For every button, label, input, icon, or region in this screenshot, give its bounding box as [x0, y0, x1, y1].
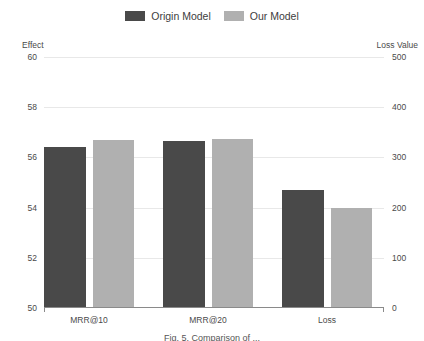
figure-caption: Fig. 5. Comparison of ... — [0, 333, 424, 341]
left-axis-tick-label: 54 — [28, 204, 37, 213]
x-axis-line — [44, 307, 384, 308]
chart-legend: Origin Model Our Model — [0, 11, 424, 22]
right-axis-tick-label: 200 — [392, 204, 406, 213]
left-axis-title: Effect — [22, 40, 44, 50]
bar-mrr-20-our-model — [212, 139, 253, 308]
right-axis-tick-label: 100 — [392, 254, 406, 263]
right-axis-tick-label: 0 — [392, 304, 397, 313]
legend-entry-origin-model: Origin Model — [125, 11, 211, 22]
x-axis-label-mrr-10: MRR@10 — [70, 315, 107, 325]
plot-area: 605856545250 5004003002001000 MRR@10MRR@… — [44, 57, 384, 308]
x-axis-tick-start — [44, 308, 45, 312]
left-axis-tick-label: 58 — [28, 103, 37, 112]
figure-container: Origin Model Our Model Effect Loss Value… — [0, 0, 424, 341]
legend-swatch-origin-model — [125, 11, 145, 21]
left-axis-tick-label: 52 — [28, 254, 37, 263]
x-axis-label-mrr-20: MRR@20 — [189, 315, 226, 325]
right-axis-title: Loss Value — [377, 40, 418, 50]
legend-label-our-model: Our Model — [250, 11, 299, 22]
gridline — [44, 57, 384, 58]
x-axis-tick-end — [383, 308, 384, 312]
left-axis-tick-label: 60 — [28, 53, 37, 62]
left-axis-tick-label: 56 — [28, 153, 37, 162]
bar-mrr-20-origin-model — [163, 141, 205, 308]
legend-entry-our-model: Our Model — [224, 11, 299, 22]
bar-mrr-10-origin-model — [44, 147, 86, 308]
right-axis-tick-label: 500 — [392, 53, 406, 62]
bar-loss-our-model — [331, 208, 372, 308]
gridline — [44, 107, 384, 108]
right-axis-tick-label: 400 — [392, 103, 406, 112]
legend-swatch-our-model — [224, 11, 244, 21]
legend-label-origin-model: Origin Model — [151, 11, 211, 22]
right-axis-tick-label: 300 — [392, 153, 406, 162]
bar-mrr-10-our-model — [93, 140, 134, 308]
bar-loss-origin-model — [282, 190, 324, 308]
x-axis-label-loss: Loss — [318, 315, 336, 325]
left-axis-tick-label: 50 — [28, 304, 37, 313]
